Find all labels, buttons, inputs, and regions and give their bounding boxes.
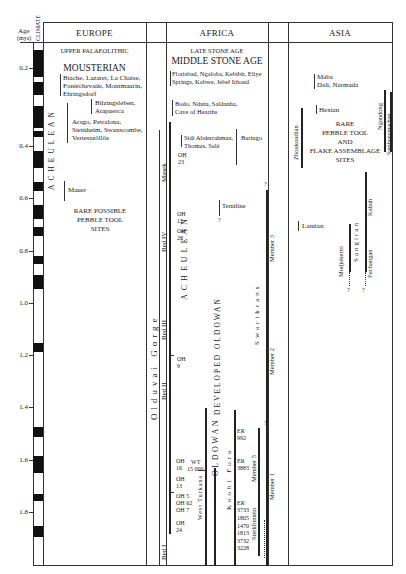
africa-sterkfontein-bar bbox=[258, 428, 260, 556]
africa-west-turkana-label: West Turkana bbox=[196, 475, 204, 520]
europe-acheulean-label: ACHEULEAN bbox=[48, 108, 56, 190]
africa-sites-2-line: Cave of Hearths bbox=[175, 108, 217, 116]
region-header-asia: ASIA bbox=[288, 28, 392, 38]
asia-sangiran-question: ? bbox=[362, 287, 365, 294]
er-label: ER 3883 bbox=[237, 458, 249, 472]
climate-band-cold bbox=[33, 343, 43, 352]
africa-member-2: Member 2 bbox=[268, 348, 276, 375]
age-tick-label: 0.6 bbox=[4, 194, 28, 202]
olduvai-bed-divider bbox=[159, 130, 160, 566]
age-tick bbox=[29, 355, 33, 356]
africa-late-stone-age: LATE STONE AGE bbox=[166, 47, 268, 54]
europe-sites-2-line: Bilzingsleben, bbox=[95, 99, 135, 107]
climate-band-cold bbox=[33, 131, 43, 137]
europe-sites-2-line: Atapuerca bbox=[95, 107, 124, 115]
africa-ternifine-question: ? bbox=[218, 217, 221, 224]
asia-rare-line: SITES bbox=[305, 156, 385, 164]
africa-acheulean-label: ACHEULEAN bbox=[181, 215, 189, 300]
europe-sites-3-bar bbox=[67, 103, 68, 143]
asia-sites-1-line: Maba bbox=[317, 73, 333, 81]
er-label: ER 3733 bbox=[237, 500, 249, 514]
frame-top bbox=[43, 22, 393, 23]
europe-sites-3-line: Arago, Petralona, bbox=[72, 118, 121, 126]
africa-member-1: Member 1 bbox=[268, 473, 276, 500]
asia-hexian-bar bbox=[316, 105, 317, 114]
asia-ngandong: Ngandong bbox=[376, 103, 384, 130]
age-tick bbox=[29, 512, 33, 513]
olduvai-tick bbox=[170, 355, 174, 356]
climate-band-cold bbox=[33, 151, 43, 168]
age-label: Age bbox=[18, 27, 30, 35]
africa-sites-2-line: Bodo, Ndutu, Saldanha, bbox=[175, 100, 237, 108]
member1-question: ? bbox=[264, 420, 267, 427]
europe-mauer-bar bbox=[64, 181, 65, 201]
olduvai-bed-iii: Bed III bbox=[160, 320, 168, 340]
asia-rare-line: FLAKE ASSEMBLAGE bbox=[303, 147, 387, 155]
africa-koobi-fora-bar bbox=[234, 410, 236, 566]
asia-sites-1-line: Dali, Narmada bbox=[317, 81, 358, 89]
africa-sites-2-bar bbox=[172, 100, 173, 116]
europe-sites-3-line: Steinheim, Swanscombe, bbox=[72, 126, 143, 134]
oh-label: OH 13 bbox=[176, 476, 185, 490]
asia-lantian: Lantian bbox=[302, 222, 323, 230]
asia-modjokerto-bar bbox=[349, 224, 351, 272]
olduvai-bed-i: Bed I bbox=[160, 545, 168, 560]
asia-modjokerto-question: ? bbox=[347, 287, 350, 294]
olduvai-right bbox=[166, 22, 167, 566]
oh-label: OH 9 bbox=[177, 356, 186, 370]
climate-label: CLIMATE bbox=[35, 15, 42, 41]
europe-sites-1-line: Ehringsdorf bbox=[63, 90, 96, 98]
asia-left bbox=[288, 22, 289, 566]
asia-zhoukoudian-bar bbox=[301, 108, 303, 168]
asia-puchangan: Puchangan bbox=[366, 249, 374, 278]
er-label: 1805 1470 1813 3732 3228 bbox=[237, 515, 249, 553]
asia-sites-1-bar bbox=[314, 74, 315, 89]
climate-band-cold bbox=[33, 182, 43, 191]
asia-kabuh: Kabuh bbox=[366, 199, 374, 216]
africa-koobi-fora-label: Koobi Fora bbox=[225, 448, 233, 510]
africa-sites-1-line: Springs, Kabwe, Jebel Irhoud bbox=[172, 78, 249, 86]
oh-label: OH 24 bbox=[176, 520, 185, 534]
africa-developed-oldowan-label: DEVELOPED OLDOWAN bbox=[214, 297, 222, 415]
europe-sites-1-line: Fontéchevade, Montmaurin, bbox=[63, 82, 142, 90]
africa-member-1-dotted bbox=[264, 520, 265, 558]
oh-label: OH 5 OH 62 OH 7 bbox=[176, 493, 192, 514]
olduvai-tick bbox=[170, 492, 174, 493]
region-header-europe: EUROPE bbox=[43, 28, 146, 38]
africa-oldowan-bar bbox=[205, 408, 207, 566]
asia-rare-line: AND bbox=[305, 138, 385, 146]
frame-right bbox=[392, 22, 393, 566]
age-tick bbox=[29, 251, 33, 252]
climate-band-cold bbox=[33, 526, 43, 537]
europe-rare-line: PEBBLE TOOL bbox=[55, 216, 145, 224]
olduvai-bed-masek: Masek bbox=[160, 163, 168, 182]
age-tick-label: 1.2 bbox=[4, 351, 28, 359]
africa-olduvai-main-bar bbox=[169, 122, 171, 534]
europe-sites-1-bar bbox=[60, 74, 61, 96]
header-divider bbox=[20, 42, 393, 43]
climate-right bbox=[43, 22, 44, 566]
climate-band-cold bbox=[33, 50, 43, 77]
oh-label: OH 23 bbox=[178, 152, 187, 166]
climate-band-cold bbox=[33, 82, 43, 95]
oh-label: OH 16 bbox=[176, 458, 185, 472]
region-header-africa: AFRICA bbox=[166, 28, 268, 38]
frame-bottom bbox=[33, 565, 393, 566]
olduvai-bed-iv: Bed IV bbox=[160, 232, 168, 252]
africa-baringo: Baringo bbox=[241, 134, 262, 142]
swartkrans-question: ? bbox=[264, 181, 267, 188]
africa-middle-stone-age: MIDDLE STONE AGE bbox=[166, 56, 268, 66]
asia-lantian-bar bbox=[298, 221, 299, 231]
age-tick-label: 1.0 bbox=[4, 299, 28, 307]
olduvai-bed-ii: Bed II bbox=[160, 382, 168, 400]
europe-mauer: Mauer bbox=[68, 186, 86, 194]
asia-rare-line: PEBBLE TOOL bbox=[305, 129, 385, 137]
age-tick bbox=[29, 407, 33, 408]
climate-band-cold bbox=[33, 275, 43, 289]
africa-sterkfontein-label: Sterkfontein bbox=[250, 508, 258, 540]
europe-upper-palaeolithic: UPPER PALAEOLITHIC bbox=[43, 47, 146, 54]
europe-rare-line: RARE POSSIBLE bbox=[55, 207, 145, 215]
age-tick bbox=[29, 146, 33, 147]
climate-band-cold bbox=[33, 106, 43, 128]
africa-baringo-bar bbox=[236, 129, 237, 165]
